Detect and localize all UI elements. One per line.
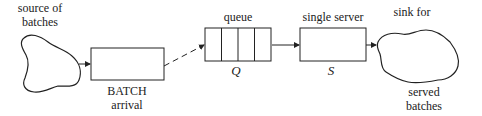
batch-arrival-label-line1: BATCH bbox=[107, 84, 147, 98]
sink-blob-shape bbox=[377, 30, 458, 83]
server-box bbox=[300, 28, 366, 61]
queue-symbol: Q bbox=[231, 63, 241, 78]
source-label-line1: source of bbox=[18, 1, 62, 15]
server-label: single server bbox=[303, 10, 364, 24]
queue-node: queue Q bbox=[205, 10, 271, 78]
server-symbol: S bbox=[328, 63, 335, 78]
source-blob-shape bbox=[21, 35, 80, 92]
sink-node: sink for served batches bbox=[377, 5, 458, 113]
source-node: source of batches bbox=[18, 1, 80, 92]
batch-arrival-node: BATCH arrival bbox=[91, 48, 164, 112]
queue-label: queue bbox=[224, 10, 253, 24]
batch-arrival-label-line2: arrival bbox=[111, 98, 143, 112]
arrow-batch-to-queue bbox=[164, 45, 204, 66]
sink-label-line3: batches bbox=[406, 99, 442, 113]
source-label-line2: batches bbox=[22, 15, 58, 29]
sink-label-line1: sink for bbox=[394, 5, 431, 19]
queueing-diagram: source of batches BATCH arrival queue Q … bbox=[0, 0, 482, 116]
server-node: single server S bbox=[300, 10, 366, 78]
sink-label-line2: served bbox=[408, 85, 439, 99]
batch-arrival-box bbox=[91, 48, 164, 80]
